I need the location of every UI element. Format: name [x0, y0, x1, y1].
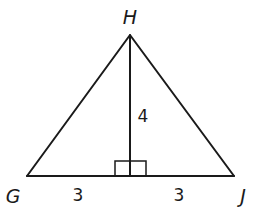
right-angle-marker-left — [115, 161, 130, 176]
right-angle-marker-right — [130, 161, 146, 176]
left-segment-length-label: 3 — [73, 185, 84, 205]
triangle-diagram: H G J 4 3 3 — [0, 0, 256, 211]
vertex-label-j: J — [236, 185, 246, 207]
vertex-label-h: H — [123, 6, 137, 28]
right-segment-length-label: 3 — [174, 185, 185, 205]
altitude-length-label: 4 — [138, 106, 149, 126]
side-gh — [27, 35, 130, 176]
vertex-label-g: G — [6, 185, 21, 207]
